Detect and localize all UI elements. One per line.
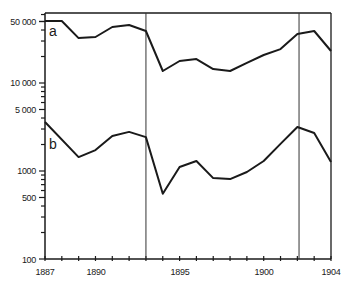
y-tick-labels: 50 000 10 000 5 000 1000 500 100 — [10, 17, 36, 265]
series-a-label: a — [49, 23, 57, 39]
x-tick-label-1900: 1900 — [255, 267, 274, 277]
x-tick-label-1895: 1895 — [171, 267, 190, 277]
y-tick-label-100: 100 — [22, 255, 36, 265]
x-tick-labels: 1887 1890 1895 1900 1904 — [36, 267, 341, 277]
x-tick-label-1890: 1890 — [87, 267, 106, 277]
x-tick-label-1887: 1887 — [36, 267, 55, 277]
y-tick-label-5000: 5 000 — [15, 105, 36, 115]
chart-canvas: 50 000 10 000 5 000 1000 500 100 1887 18… — [0, 0, 350, 287]
x-tick-label-1904: 1904 — [322, 267, 341, 277]
log-line-chart: 50 000 10 000 5 000 1000 500 100 1887 18… — [0, 0, 350, 287]
series-b-line — [45, 122, 331, 194]
y-tick-label-50000: 50 000 — [10, 17, 36, 27]
y-axis-ticks — [39, 15, 45, 259]
y-tick-label-10000: 10 000 — [10, 78, 36, 88]
series-b-label: b — [49, 136, 57, 152]
series-a-line — [45, 21, 331, 71]
y-tick-label-1000: 1000 — [17, 166, 36, 176]
y-tick-label-500: 500 — [22, 193, 36, 203]
